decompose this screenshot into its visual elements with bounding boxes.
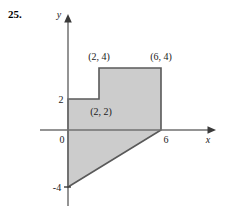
figure-page: 25. y x 0 2 -4 6 (2, 4) (6, 4) (2, 2): [0, 0, 227, 211]
x-axis-arrow-icon: [208, 126, 217, 134]
coordinate-plane-figure: y x 0 2 -4 6 (2, 4) (6, 4) (2, 2): [0, 0, 227, 211]
x-axis-label: x: [205, 134, 211, 145]
shaded-region: [68, 68, 161, 187]
point-label-2-4: (2, 4): [88, 51, 110, 63]
y-tick-label-minus-4: -4: [53, 182, 61, 193]
origin-label: 0: [60, 134, 65, 145]
y-axis-arrow-icon: [64, 14, 72, 23]
y-tick-label-2: 2: [59, 94, 64, 105]
x-tick-label-6: 6: [164, 134, 169, 145]
point-label-2-2: (2, 2): [90, 106, 112, 118]
point-label-6-4: (6, 4): [150, 51, 172, 63]
y-axis-label: y: [56, 9, 62, 20]
